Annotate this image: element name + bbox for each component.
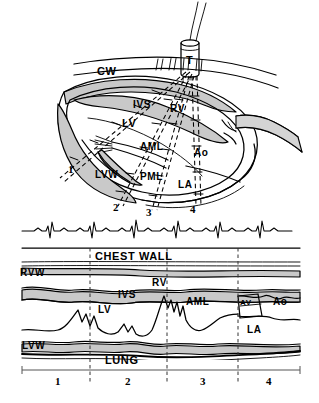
mmode-label-chest-wall: CHEST WALL — [95, 251, 173, 262]
mmode-label-lv: LV — [98, 305, 111, 315]
beam-number-2: 2 — [113, 202, 119, 213]
mmode-label-rv: RV — [152, 278, 167, 288]
beam-number-4: 4 — [190, 204, 196, 215]
mmode-label-ivs: IVS — [118, 290, 136, 300]
mmode-label-aml: AML — [186, 297, 209, 307]
label-chest-wall: CW — [97, 66, 117, 77]
label-pml: PML — [140, 172, 163, 182]
mmode-axis-number-2: 2 — [125, 376, 131, 387]
mmode-label-rvw: RVW — [20, 268, 45, 278]
mmode-label-lvw: LVW — [22, 341, 45, 351]
label-transducer: T — [186, 55, 193, 66]
figure-canvas: .ln{fill:none;stroke:#000;stroke-width:1… — [0, 0, 319, 403]
mmode-panel — [22, 248, 300, 382]
mmode-axis-number-1: 1 — [55, 376, 61, 387]
mmode-axis-number-4: 4 — [266, 376, 272, 387]
beam-number-1: 1 — [68, 164, 74, 175]
label-rv: RV — [170, 104, 185, 114]
label-la: LA — [178, 180, 193, 190]
figure-root: .ln{fill:none;stroke:#000;stroke-width:1… — [0, 0, 319, 403]
mmode-label-la: LA — [247, 325, 262, 335]
label-lvw: LVW — [95, 170, 118, 180]
label-ao: Ao — [194, 148, 209, 158]
transducer-group — [181, 2, 206, 80]
mmode-label-lung: LUNG — [105, 355, 139, 366]
label-ivs: IVS — [133, 100, 151, 110]
beam-number-3: 3 — [146, 207, 152, 218]
mmode-axis-number-3: 3 — [200, 376, 206, 387]
ecg-strip — [22, 220, 292, 238]
mmode-label-ao: Ao — [273, 297, 288, 307]
label-aml: AML — [140, 142, 163, 152]
label-lv: LV — [122, 118, 136, 129]
mmode-label-av: AV — [240, 299, 252, 307]
